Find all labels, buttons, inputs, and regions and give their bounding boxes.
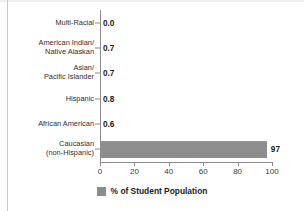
bar-value-label: 0.0 xyxy=(103,18,114,27)
bar-value-label: 0.6 xyxy=(103,120,114,129)
value-tick-label: 60 xyxy=(199,167,208,176)
value-tick-mark xyxy=(100,162,101,166)
value-tick-label: 100 xyxy=(265,167,278,176)
bar-value-label: 0.7 xyxy=(103,69,114,78)
bar-value-label: 97 xyxy=(271,145,280,154)
value-tick-label: 40 xyxy=(164,167,173,176)
value-axis-line xyxy=(100,162,273,163)
legend-label: % of Student Population xyxy=(111,186,208,196)
value-tick-mark xyxy=(134,162,135,166)
category-label: Hispanic xyxy=(0,94,94,103)
value-tick-label: 20 xyxy=(130,167,139,176)
page-left-rule xyxy=(7,0,8,211)
category-label: African American xyxy=(0,120,94,129)
chart-legend: % of Student Population xyxy=(0,186,304,196)
bar-value-label: 0.8 xyxy=(103,94,114,103)
category-label: Caucasian (non-Hispanic) xyxy=(0,141,94,158)
value-tick-mark xyxy=(238,162,239,166)
category-tick-mark xyxy=(95,48,100,49)
legend-swatch-icon xyxy=(97,187,106,196)
value-tick-mark xyxy=(169,162,170,166)
bar-chart-figure: Multi-Racial0.0American Indian/ Native A… xyxy=(0,0,304,211)
chart-bar xyxy=(100,141,267,158)
category-axis-line xyxy=(100,10,101,162)
bar-value-label: 0.7 xyxy=(103,44,114,53)
page-top-rule xyxy=(0,0,304,2)
value-tick-mark xyxy=(272,162,273,166)
category-tick-mark xyxy=(95,98,100,99)
value-tick-mark xyxy=(203,162,204,166)
category-tick-mark xyxy=(95,124,100,125)
category-tick-mark xyxy=(95,73,100,74)
category-label: Multi-Racial xyxy=(0,18,94,27)
value-tick-label: 0 xyxy=(98,167,102,176)
category-label: Asian/ Pacific Islander xyxy=(0,65,94,82)
category-tick-mark xyxy=(95,22,100,23)
value-tick-label: 80 xyxy=(233,167,242,176)
category-label: American Indian/ Native Alaskan xyxy=(0,39,94,56)
